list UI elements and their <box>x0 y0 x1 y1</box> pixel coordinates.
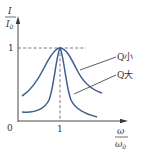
x-axis-label-numerator: ω <box>117 126 125 136</box>
annotation-q-small: Q小 <box>117 52 133 62</box>
leader-line-q-large <box>74 75 116 94</box>
y-axis-label-denominator: I0 <box>5 19 14 30</box>
origin-label: 0 <box>7 123 13 133</box>
y-axis-label-numerator: I <box>7 6 12 16</box>
annotation-q-large: Q大 <box>117 69 133 80</box>
x-tick-label-1: 1 <box>57 124 63 134</box>
x-axis-arrow-icon <box>120 119 128 123</box>
leader-line-q-small <box>80 57 116 70</box>
x-axis-label-denominator: ω0 <box>115 139 126 150</box>
y-axis-arrow-icon <box>16 16 20 24</box>
resonance-chart: I I0 1 0 1 ω ω0 Q小 Q大 <box>0 0 147 154</box>
y-tick-label-1: 1 <box>8 43 14 53</box>
